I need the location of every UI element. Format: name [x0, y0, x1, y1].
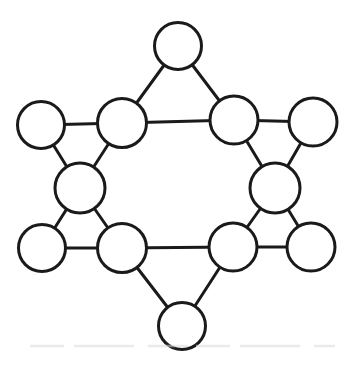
node-inner-upper-left: [98, 99, 147, 148]
graph-diagram: [0, 0, 354, 366]
node-mid-left: [55, 163, 105, 213]
node-outer-upper-right: [289, 98, 337, 146]
node-outer-lower-right: [287, 223, 335, 271]
node-outer-lower-left: [19, 225, 66, 272]
node-outer-upper-left: [18, 102, 65, 149]
star-graph-svg: [0, 0, 354, 366]
node-mid-right: [250, 163, 300, 213]
node-inner-lower-right: [209, 223, 257, 271]
node-top-point: [155, 23, 202, 70]
node-bottom-point: [159, 303, 206, 350]
nodes-layer: [18, 23, 338, 350]
node-inner-lower-left: [98, 224, 147, 273]
node-inner-upper-right: [210, 96, 258, 144]
